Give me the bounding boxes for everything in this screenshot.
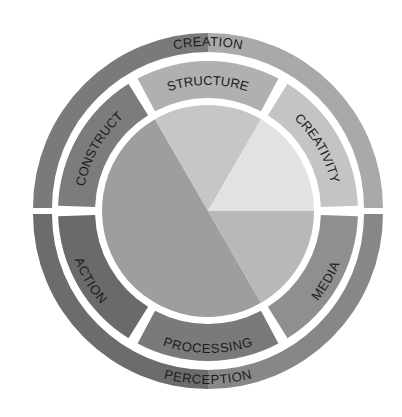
outer-label-perception: PERCEPTION <box>163 367 253 387</box>
inner-pie <box>102 105 314 317</box>
horizontal-divider <box>30 208 95 214</box>
concept-wheel-diagram: CREATION PERCEPTION STRUCTURE CREATIVITY… <box>0 0 402 417</box>
horizontal-divider-right <box>321 208 386 214</box>
